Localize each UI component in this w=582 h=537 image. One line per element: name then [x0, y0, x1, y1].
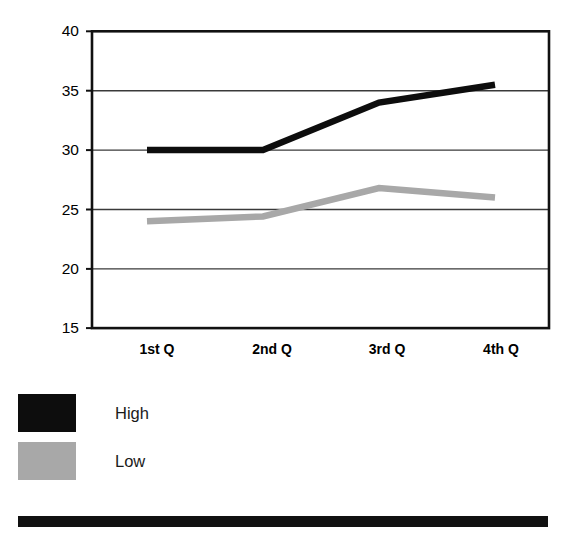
y-tick-label-40: 40 [62, 22, 80, 39]
legend-label-low: Low [115, 453, 145, 470]
series-line-high [147, 85, 495, 150]
y-tick-label-35: 35 [62, 82, 79, 99]
x-tick-label-1: 1st Q [139, 341, 174, 357]
plot-frame [92, 31, 549, 328]
y-tick-label-20: 20 [62, 260, 80, 277]
chart-legend: High Low [18, 389, 318, 485]
line-chart-figure: 40 35 30 25 20 15 1st Q 2nd Q 3rd Q 4th … [0, 0, 582, 537]
bottom-rule [18, 516, 548, 527]
x-axis-labels: 1st Q 2nd Q 3rd Q 4th Q [139, 341, 519, 357]
y-axis-labels: 40 35 30 25 20 15 [62, 22, 80, 336]
plot-area: 40 35 30 25 20 15 1st Q 2nd Q 3rd Q 4th … [0, 0, 582, 370]
legend-swatch-high [18, 394, 76, 432]
legend-label-high: High [115, 405, 149, 422]
legend-item-high: High [18, 389, 318, 437]
x-tick-label-4: 4th Q [483, 341, 519, 357]
legend-swatch-low [18, 442, 76, 480]
x-tick-label-3: 3rd Q [369, 341, 406, 357]
y-tick-label-30: 30 [62, 141, 80, 158]
y-tick-label-25: 25 [62, 201, 79, 218]
gridlines [92, 91, 549, 269]
y-tick-label-15: 15 [62, 319, 79, 336]
legend-item-low: Low [18, 437, 318, 485]
series-line-low [147, 188, 495, 221]
x-tick-label-2: 2nd Q [252, 341, 292, 357]
